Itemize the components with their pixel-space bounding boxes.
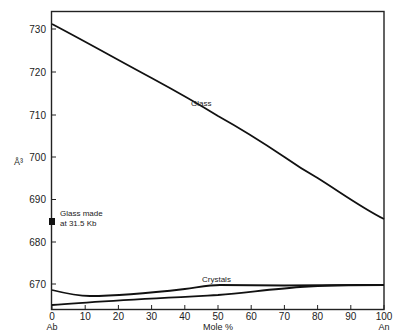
y-tick-label: 670 (29, 279, 46, 290)
x-tick-label: 50 (212, 311, 224, 322)
marker-label-line1: Glass made (60, 209, 103, 218)
chart: 670 680 690 700 710 720 730 Å³ 0 10 20 3… (0, 0, 399, 336)
y-tick-label: 690 (29, 194, 46, 205)
x-tick-label: 0 (49, 311, 55, 322)
y-tick-label: 710 (29, 110, 46, 121)
x-tick-labels: 0 10 20 30 40 50 60 70 80 90 100 (49, 311, 393, 322)
x-tick-label: 60 (246, 311, 258, 322)
y-tick-label: 700 (29, 152, 46, 163)
y-tick-labels: 670 680 690 700 710 720 730 (29, 24, 46, 290)
glass-curve (52, 24, 384, 219)
x-tick-label: 90 (345, 311, 357, 322)
y-tick-label: 730 (29, 24, 46, 35)
y-axis-title: Å³ (14, 157, 23, 167)
plot-frame (52, 12, 385, 310)
x-tick-label: 70 (279, 311, 291, 322)
x-tick-label: 80 (312, 311, 324, 322)
y-tick-label: 680 (29, 237, 46, 248)
marker-label-line2: at 31.5 Kb (60, 219, 97, 228)
glass-31-5kb-marker (49, 218, 55, 225)
x-tick-label: 30 (146, 311, 158, 322)
x-tick-label: 100 (376, 311, 393, 322)
x-axis-title: Mole % (203, 322, 233, 332)
crystals-label: Crystals (202, 275, 231, 284)
x-right-end-label: An (378, 322, 389, 332)
x-tick-label: 40 (179, 311, 191, 322)
x-tick-label: 10 (80, 311, 92, 322)
x-left-end-label: Ab (46, 322, 57, 332)
glass-label: Glass (191, 99, 211, 108)
y-tick-label: 720 (29, 67, 46, 78)
x-tick-label: 20 (113, 311, 125, 322)
